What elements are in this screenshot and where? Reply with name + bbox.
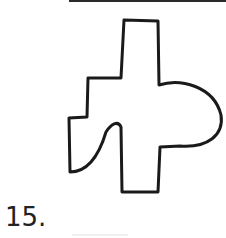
- question-number: 15.: [5, 204, 46, 230]
- faint-mark: [72, 234, 128, 236]
